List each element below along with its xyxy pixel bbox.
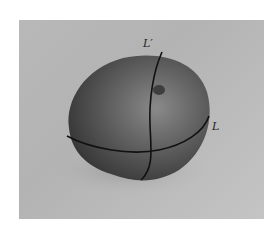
label-l-prime: L′	[143, 37, 153, 50]
stem-dimple	[153, 85, 165, 95]
orange-fruit	[68, 55, 209, 180]
fruit-illustration	[19, 20, 264, 219]
label-l: L	[212, 120, 219, 133]
fruit-photograph: L′ L	[19, 20, 264, 219]
